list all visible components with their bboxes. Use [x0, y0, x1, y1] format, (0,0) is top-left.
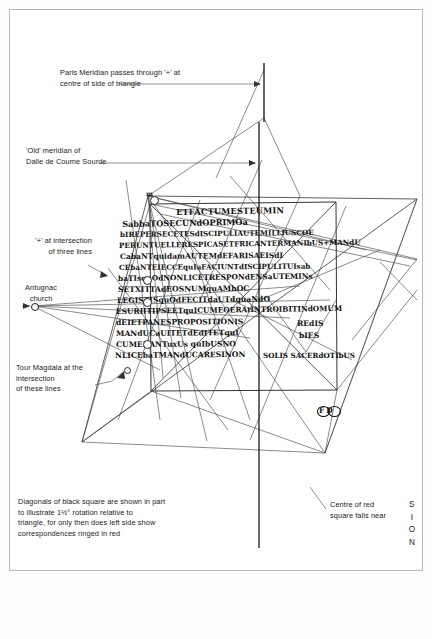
fd-mark: FD: [319, 406, 335, 415]
manuscript-line: CabaNTquidamAUTEMdEFARISAEISdI: [120, 251, 283, 261]
antugnac-node: [31, 303, 39, 311]
ringed-node-2: [143, 298, 152, 307]
paris-meridian-arrow: [254, 81, 261, 87]
manuscript-line: ETFACTUMESTEUMIN: [176, 205, 284, 217]
right-diagonal-4: [352, 259, 417, 340]
annotation-tour-magdala: Tour Magdala at the intersection of thes…: [16, 363, 112, 395]
annotation-old-meridian: 'Old' meridian of Dalle de Coume Sourde: [26, 146, 206, 167]
plus-intersection-arrow: [100, 271, 108, 278]
lower-triangle-3: [325, 390, 337, 453]
ray-up-3: [264, 118, 300, 196]
right-diagonal-2: [337, 290, 417, 390]
sion-letter: I: [405, 512, 419, 525]
red-square-leader: [310, 487, 326, 509]
manuscript-line: LEGISTISquOdFECITdaUTdquaNdO: [117, 294, 270, 305]
annotation-centre-red-square: Centre of red square falls near: [330, 500, 408, 521]
manuscript-line: NLICEbaTMANdUCARESINON: [115, 350, 245, 360]
manuscript-fragment: SOLIS SACERdOTIbUS: [263, 351, 355, 360]
annotation-plus-intersection: '+' at intersection of three lines: [12, 236, 92, 257]
annotation-antugnac-church: Antugnac church: [10, 283, 72, 304]
manuscript-fragment: REdIS: [297, 319, 323, 328]
manuscript-fragment: bIES: [299, 331, 319, 340]
diagram-page: ETFACTUMESTEUMINSabbaTOSECUNdOPRIMOabIRE…: [0, 0, 432, 639]
bottom-sweep: [82, 391, 151, 442]
manuscript-line: SETXITTAdEOSNUMquAMhOC: [118, 284, 249, 294]
sion-letter: N: [405, 537, 419, 550]
sion-letters: SION: [405, 499, 419, 549]
old-meridian-arrow: [249, 160, 256, 166]
lower-triangle-2: [151, 391, 325, 453]
right-diagonal-3: [380, 262, 417, 300]
ringed-node-3: [143, 340, 152, 349]
manuscript-line: CEbaNTEIECCEquIaFACIUNTdISCIPULITUIsab: [119, 262, 310, 272]
ringed-node-1: [143, 276, 152, 285]
manuscript-line: MANdUCaUITETdEdITETquI: [116, 328, 239, 338]
sion-letter: S: [405, 499, 419, 512]
annotation-diagonals-note: Diagonals of black square are shown in p…: [18, 497, 228, 539]
magdala-node: [124, 367, 131, 374]
manuscript-line: CUMERANTuxUs quIbUSNO: [116, 339, 236, 349]
apex-node-circle: [150, 196, 159, 205]
sion-letter: O: [405, 524, 419, 537]
annotation-paris-meridian: Paris Meridian passes through '+' at cen…: [60, 68, 250, 89]
manuscript-line: dEIETPANESPROPOSITIONIS: [116, 317, 243, 327]
